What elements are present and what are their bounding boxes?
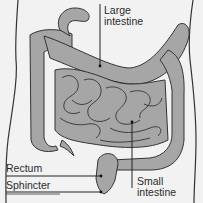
- label-small-intestine: Small intestine: [137, 176, 176, 198]
- intestine-diagram: Large intestine Small intestine Rectum S…: [0, 0, 203, 203]
- label-sphincter: Sphincter: [6, 180, 50, 191]
- body-outline-right: [189, 0, 196, 203]
- label-large-intestine: Large intestine: [104, 5, 143, 27]
- label-rectum: Rectum: [6, 163, 42, 174]
